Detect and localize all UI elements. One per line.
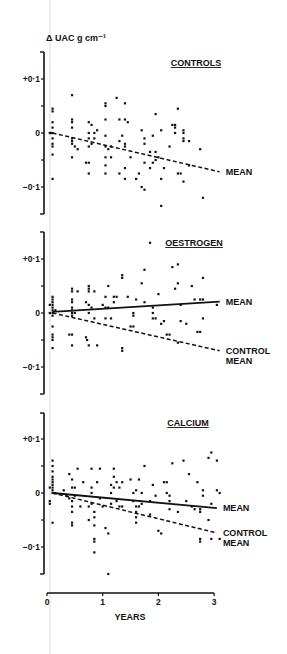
- data-point: [51, 127, 53, 129]
- data-point: [168, 145, 170, 147]
- data-point: [77, 468, 79, 470]
- data-point: [71, 143, 73, 145]
- data-point: [51, 336, 53, 338]
- control-mean-line: [53, 313, 220, 351]
- data-point: [129, 478, 131, 480]
- data-point: [143, 137, 145, 139]
- y-tick-label: +0·1: [23, 74, 41, 84]
- data-point: [163, 481, 165, 483]
- data-point: [88, 304, 90, 306]
- data-point: [199, 331, 201, 333]
- data-point: [138, 505, 140, 507]
- data-point: [135, 489, 137, 491]
- data-point: [51, 121, 53, 123]
- data-point: [107, 148, 109, 150]
- mean-line-label: MEAN: [226, 167, 253, 177]
- scatter-points: [49, 242, 218, 352]
- data-point: [216, 304, 218, 306]
- data-point: [182, 181, 184, 183]
- data-point: [194, 298, 196, 300]
- data-point: [104, 172, 106, 174]
- data-point: [160, 129, 162, 131]
- data-point: [68, 334, 70, 336]
- data-point: [51, 465, 53, 467]
- data-point: [51, 470, 53, 472]
- data-point: [68, 473, 70, 475]
- data-point: [49, 487, 51, 489]
- data-point: [182, 129, 184, 131]
- data-point: [71, 505, 73, 507]
- data-point: [124, 178, 126, 180]
- data-point: [49, 304, 51, 306]
- data-point: [71, 118, 73, 120]
- data-point: [138, 172, 140, 174]
- data-point: [51, 296, 53, 298]
- data-point: [88, 285, 90, 287]
- data-point: [93, 551, 95, 553]
- data-point: [77, 148, 79, 150]
- data-point: [51, 315, 53, 317]
- data-point: [71, 524, 73, 526]
- data-point: [51, 476, 53, 478]
- data-point: [51, 339, 53, 341]
- data-point: [182, 137, 184, 139]
- data-point: [88, 288, 90, 290]
- data-point: [141, 492, 143, 494]
- data-point: [141, 186, 143, 188]
- data-point: [199, 508, 201, 510]
- data-point: [129, 325, 131, 327]
- data-point: [82, 481, 84, 483]
- data-point: [116, 97, 118, 99]
- data-point: [51, 137, 53, 139]
- data-point: [118, 118, 120, 120]
- data-point: [71, 478, 73, 480]
- data-point: [135, 522, 137, 524]
- data-point: [196, 481, 198, 483]
- data-point: [202, 495, 204, 497]
- data-point: [107, 573, 109, 575]
- uac-change-chart: Δ UAC g cm⁻¹ +0·10−0·1CONTROLSMEAN+0·10−…: [0, 0, 287, 654]
- data-point: [88, 519, 90, 521]
- data-point: [207, 457, 209, 459]
- data-point: [152, 135, 154, 137]
- data-point: [121, 481, 123, 483]
- data-point: [185, 500, 187, 502]
- data-point: [199, 511, 201, 513]
- data-point: [124, 143, 126, 145]
- data-point: [202, 197, 204, 199]
- data-point: [88, 172, 90, 174]
- data-point: [71, 290, 73, 292]
- data-point: [51, 110, 53, 112]
- data-point: [110, 156, 112, 158]
- data-point: [90, 143, 92, 145]
- data-point: [171, 266, 173, 268]
- data-point: [188, 140, 190, 142]
- data-point: [50, 132, 52, 134]
- data-point: [124, 118, 126, 120]
- data-point: [180, 172, 182, 174]
- data-point: [88, 290, 90, 292]
- data-point: [51, 304, 53, 306]
- data-point: [177, 263, 179, 265]
- data-point: [113, 487, 115, 489]
- data-point: [155, 317, 157, 319]
- data-point: [143, 189, 145, 191]
- data-point: [118, 140, 120, 142]
- mean-line: [53, 493, 217, 508]
- data-point: [149, 242, 151, 244]
- scatter-points: [49, 94, 204, 207]
- data-point: [207, 519, 209, 521]
- data-point: [88, 162, 90, 164]
- data-point: [96, 481, 98, 483]
- data-point: [104, 527, 106, 529]
- data-point: [51, 487, 53, 489]
- data-point: [90, 468, 92, 470]
- data-point: [163, 320, 165, 322]
- control-mean-line-label: CONTROL: [223, 528, 268, 538]
- data-point: [51, 481, 53, 483]
- x-axis: 0123: [45, 593, 217, 607]
- data-point: [124, 102, 126, 104]
- y-tick-label: −0·1: [23, 542, 41, 552]
- data-point: [155, 113, 157, 115]
- data-point: [219, 538, 221, 540]
